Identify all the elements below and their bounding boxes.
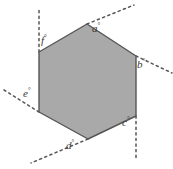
angle-label-d: d° — [66, 139, 74, 151]
degree-symbol-f: ° — [44, 33, 47, 41]
angle-label-f: f° — [41, 34, 47, 46]
degree-symbol-e: ° — [28, 86, 31, 94]
hexagon-diagram-svg — [0, 0, 173, 169]
exterior-angle-ray-e — [4, 90, 39, 112]
angle-label-b: b° — [137, 58, 145, 70]
degree-symbol-b: ° — [143, 57, 146, 65]
degree-symbol-c: ° — [127, 115, 130, 123]
angle-label-e: e° — [23, 87, 31, 99]
degree-symbol-a: ° — [98, 21, 101, 29]
exterior-angle-ray-d — [31, 139, 88, 163]
angle-label-a: a° — [92, 22, 100, 34]
angle-label-c: c° — [122, 116, 130, 128]
degree-symbol-d: ° — [72, 138, 75, 146]
geometry-figure: a° b° c° d° e° f° — [0, 0, 173, 169]
